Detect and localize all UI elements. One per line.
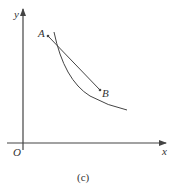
point-a-label: A bbox=[37, 27, 45, 39]
figure-caption: (c) bbox=[77, 171, 90, 184]
point-b bbox=[99, 89, 102, 92]
point-b-label: B bbox=[102, 87, 109, 99]
diagram-canvas: A B y x O (c) bbox=[0, 0, 170, 187]
x-axis-label: x bbox=[161, 145, 167, 157]
curve bbox=[54, 32, 127, 110]
y-axis-label: y bbox=[13, 8, 19, 20]
point-a bbox=[47, 35, 50, 38]
origin-label: O bbox=[13, 146, 21, 158]
